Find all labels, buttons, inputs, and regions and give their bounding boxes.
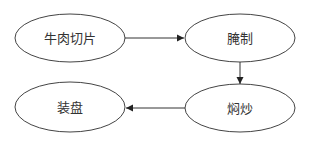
node-label: 焖炒 [227, 101, 253, 116]
node-beef-slicing: 牛肉切片 [15, 14, 125, 62]
flowchart: 牛肉切片 腌制 焖炒 装盘 [0, 0, 310, 144]
node-label: 牛肉切片 [44, 31, 96, 46]
node-label: 装盘 [57, 100, 83, 115]
node-label: 腌制 [227, 31, 253, 46]
node-braise-fry: 焖炒 [185, 84, 295, 132]
node-marinate: 腌制 [185, 14, 295, 62]
node-plate: 装盘 [15, 82, 125, 132]
